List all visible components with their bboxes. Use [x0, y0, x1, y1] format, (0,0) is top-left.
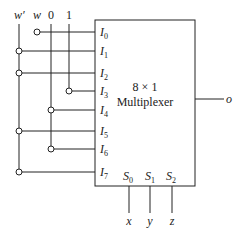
multiplexer-diagram: w′ w 0 1 I0 I1 I2 I3 I4 I5 I6 I7 8 × 1 M…: [0, 0, 243, 240]
select-label-1: S1: [145, 169, 155, 185]
connector-w-i0: [34, 29, 40, 35]
input-label-7: I7: [99, 165, 108, 181]
connector-wp-i1: [16, 48, 22, 54]
input-label-0: I0: [99, 25, 108, 41]
connector-wp-i2: [16, 70, 22, 76]
label-w-prime: w′: [14, 8, 25, 22]
input-label-4: I4: [99, 103, 108, 119]
signal-label-y: y: [146, 214, 153, 228]
select-label-0: S0: [123, 169, 133, 185]
select-label-2: S2: [166, 169, 176, 185]
label-one: 1: [66, 8, 72, 22]
input-label-2: I2: [99, 66, 108, 82]
output-label: o: [226, 92, 232, 106]
connector-zero-i4: [48, 107, 54, 113]
signal-label-z: z: [169, 214, 175, 228]
connector-wp-i5: [16, 128, 22, 134]
mux-title-name: Multiplexer: [117, 95, 174, 109]
label-zero: 0: [48, 8, 54, 22]
signal-label-x: x: [125, 214, 132, 228]
connector-wp-i7: [16, 169, 22, 175]
input-label-5: I5: [99, 124, 108, 140]
connector-one-i3: [66, 88, 72, 94]
input-label-3: I3: [99, 84, 108, 100]
label-w: w: [33, 8, 41, 22]
connector-zero-i6: [48, 146, 54, 152]
mux-title-size: 8 × 1: [133, 80, 158, 94]
input-label-6: I6: [99, 142, 108, 158]
input-label-1: I1: [99, 44, 108, 60]
